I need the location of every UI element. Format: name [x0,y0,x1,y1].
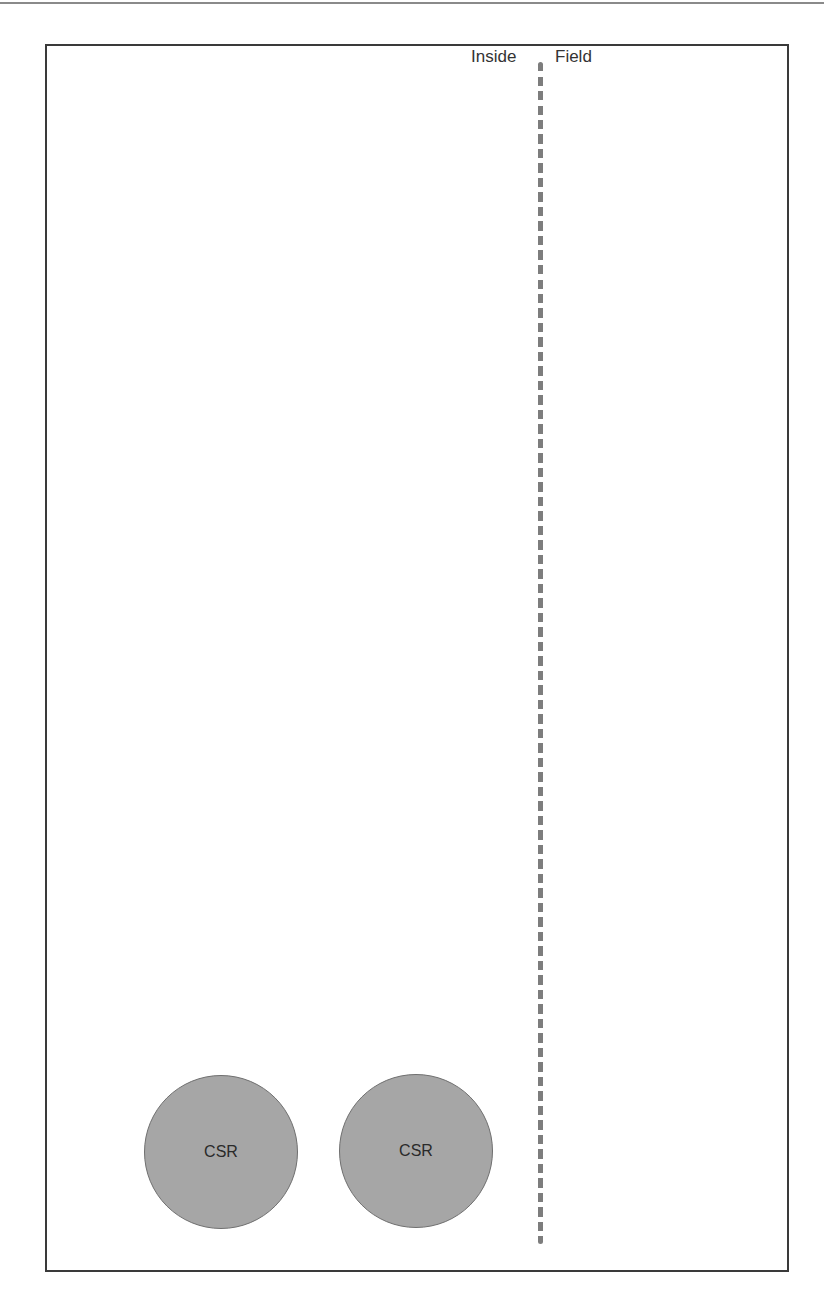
zone-label-inside: Inside [471,46,516,68]
csr-node-2: CSR [339,1074,493,1228]
csr-node-1: CSR [144,1075,298,1229]
top-rule [0,2,824,4]
zone-label-field: Field [555,46,592,68]
csr-node-2-label: CSR [399,1142,433,1160]
csr-node-1-label: CSR [204,1143,238,1161]
inside-field-divider [538,62,543,1244]
